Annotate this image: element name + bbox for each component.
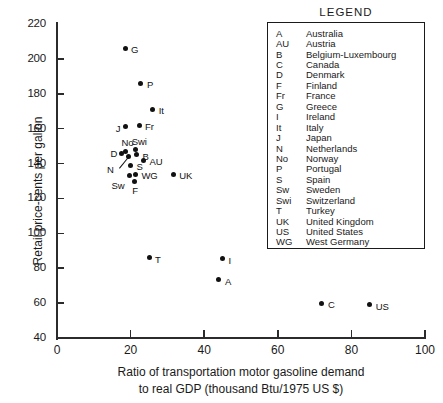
data-point-c (319, 301, 324, 306)
legend-entry-code: G (276, 101, 306, 112)
data-point-label-d: D (110, 148, 117, 159)
legend-entry-code: I (276, 111, 306, 122)
data-point-fr (137, 123, 142, 128)
y-tick-label-text: 220 (16, 17, 46, 29)
data-point-label-j: J (116, 123, 121, 134)
data-point-us (367, 302, 372, 307)
legend-entry-name: Finland (306, 80, 337, 91)
legend-entry-name: Japan (306, 132, 332, 143)
legend-entry: FFinland (276, 80, 396, 90)
x-tick-label: 0 (37, 343, 77, 357)
legend-entry-code: C (276, 59, 306, 70)
data-point-label-wg: WG (141, 170, 157, 181)
y-tick-label-text: 40 (16, 331, 46, 343)
legend-entry-name: West Germany (306, 236, 369, 247)
legend-entry: DDenmark (276, 70, 396, 80)
x-tick-label: 100 (405, 343, 443, 357)
data-point-b (134, 152, 139, 157)
legend-entry: CCanada (276, 59, 396, 69)
legend-entry-code: J (276, 132, 306, 143)
legend-entry-code: B (276, 49, 306, 60)
data-point-p (138, 81, 143, 86)
legend-entry: IIreland (276, 112, 396, 122)
y-tick-label: 220 (16, 17, 46, 31)
legend-entry-code: T (276, 205, 306, 216)
legend-entry: FrFrance (276, 91, 396, 101)
legend-entry: AUAustria (276, 38, 396, 48)
data-point-a (216, 277, 221, 282)
legend-entry-name: Netherlands (306, 143, 357, 154)
data-point-label-i: I (229, 255, 232, 266)
data-point-i (220, 256, 225, 261)
x-axis-title-line1: Ratio of transportation motor gasoline d… (57, 364, 425, 381)
legend-entry-name: Portugal (306, 163, 341, 174)
data-point-j (123, 124, 128, 129)
legend-entry-code: WG (276, 236, 306, 247)
legend-entry-name: Ireland (306, 111, 335, 122)
legend-entry: WGWest Germany (276, 237, 396, 247)
legend-entry-code: AU (276, 38, 306, 49)
data-point-wg (133, 172, 138, 177)
data-point-label-p: P (147, 79, 153, 90)
legend-entry-name: Denmark (306, 69, 345, 80)
legend-entry: NoNorway (276, 153, 396, 163)
x-tick-label: 40 (184, 343, 224, 357)
legend-entry-code: D (276, 69, 306, 80)
legend-entry-code: UK (276, 216, 306, 227)
legend-entry: UKUnited Kingdom (276, 216, 396, 226)
data-point-label-us: US (376, 301, 389, 312)
y-axis-title: Retail price-cents per gallon (14, 60, 30, 310)
data-point-t (147, 255, 152, 260)
legend-entry-code: A (276, 28, 306, 39)
legend-entry-code: Sw (276, 184, 306, 195)
legend-entry-name: United Kingdom (306, 216, 374, 227)
legend-entry: USUnited States (276, 226, 396, 236)
legend-entry-code: Fr (276, 90, 306, 101)
legend-entry-code: P (276, 163, 306, 174)
data-point-label-f: F (132, 185, 138, 196)
data-point-label-c: C (328, 299, 335, 310)
legend-entry: ItItaly (276, 122, 396, 132)
legend-entry: BBelgium-Luxembourg (276, 49, 396, 59)
data-point-uk (171, 172, 176, 177)
legend-entry: NNetherlands (276, 143, 396, 153)
data-point-label-t: T (155, 254, 161, 265)
legend-entry-name: Sweden (306, 184, 340, 195)
legend-entry-name: Spain (306, 174, 330, 185)
legend-entry: PPortugal (276, 164, 396, 174)
legend-entry-name: Turkey (306, 205, 335, 216)
legend-title: LEGEND (267, 6, 425, 18)
x-tick-label: 60 (258, 343, 298, 357)
data-point-label-it: It (159, 105, 164, 116)
legend-entry-list: AAustraliaAUAustriaBBelgium-LuxembourgCC… (276, 28, 396, 247)
legend-entry: GGreece (276, 101, 396, 111)
data-point-label-n: N (107, 164, 114, 175)
data-point-label-fr: Fr (145, 121, 154, 132)
data-point-label-a: A (225, 276, 231, 287)
legend-entry-name: United States (306, 226, 363, 237)
legend-entry-code: F (276, 80, 306, 91)
data-point-s (128, 163, 133, 168)
scatter-chart-figure: 406080100120140160180200220 020406080100… (0, 0, 443, 403)
data-point-d (119, 151, 124, 156)
legend-box: AAustraliaAUAustriaBBelgium-LuxembourgCC… (267, 22, 425, 249)
data-point-g (123, 46, 128, 51)
data-point-it (150, 107, 155, 112)
legend-entry-name: Australia (306, 28, 343, 39)
data-point-sw (127, 173, 132, 178)
data-point-label-swi: Swi (132, 136, 147, 147)
legend-entry: SwSweden (276, 185, 396, 195)
legend-entry: JJapan (276, 132, 396, 142)
legend-entry-name: Belgium-Luxembourg (306, 49, 396, 60)
legend-entry-code: S (276, 174, 306, 185)
data-point-label-sw: Sw (111, 180, 124, 191)
legend-entry-name: France (306, 90, 336, 101)
legend-entry-name: Switzerland (306, 195, 355, 206)
legend-entry: SwiSwitzerland (276, 195, 396, 205)
legend-entry: SSpain (276, 174, 396, 184)
legend-entry-name: Austria (306, 38, 336, 49)
x-axis-title-line2: to real GDP (thousand Btu/1975 US $) (57, 381, 425, 398)
legend-entry-code: It (276, 122, 306, 133)
data-point-label-uk: UK (179, 170, 192, 181)
x-axis-title: Ratio of transportation motor gasoline d… (57, 364, 425, 398)
